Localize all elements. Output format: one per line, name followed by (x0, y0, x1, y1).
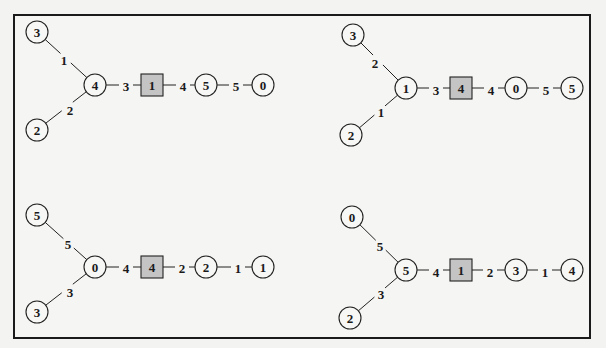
edge: 3 (46, 274, 87, 306)
edge-weight-label: 3 (433, 83, 440, 98)
edge-weight-label: 4 (180, 79, 187, 94)
node-label: 1 (403, 81, 410, 96)
edge-weight-label: 2 (487, 265, 494, 280)
edge-weight-label: 5 (233, 79, 240, 94)
edge: 4 (106, 261, 141, 276)
tree-node: 5 (395, 259, 417, 281)
edge-weight-label: 1 (542, 265, 549, 280)
node-label: 4 (569, 263, 576, 278)
edge: 5 (527, 83, 561, 98)
node-label: 0 (260, 78, 267, 93)
root-node: 1 (141, 74, 163, 96)
tree-node: 5 (26, 204, 48, 226)
node-label: 3 (350, 28, 357, 43)
edge-line (358, 297, 374, 311)
edge: 4 (417, 265, 450, 280)
tree-node: 2 (26, 119, 48, 141)
edge-weight-label: 2 (372, 56, 379, 71)
edge-weight-label: 3 (123, 79, 130, 94)
edge-line (71, 63, 87, 78)
node-label: 2 (203, 260, 210, 275)
tree-node: 3 (26, 301, 48, 323)
tree-node: 1 (395, 77, 417, 99)
node-label: 5 (34, 208, 41, 223)
edge-line (73, 92, 86, 102)
tree-node: 2 (340, 124, 362, 146)
tree-node: 1 (252, 256, 274, 278)
edge-weight-label: 3 (67, 285, 74, 300)
tree-node: 5 (561, 77, 583, 99)
edge-weight-label: 4 (488, 83, 495, 98)
node-label: 4 (92, 78, 99, 93)
edge-line (45, 222, 63, 238)
edge: 1 (527, 265, 561, 280)
edge: 2 (472, 265, 505, 280)
node-label: 2 (347, 311, 354, 326)
node-label: 4 (458, 81, 465, 96)
edge-line (361, 43, 373, 55)
tree-node: 4 (561, 259, 583, 281)
tree-node: 3 (505, 259, 527, 281)
tree-node: 3 (342, 24, 364, 46)
edge: 3 (417, 83, 450, 98)
edge: 3 (358, 277, 397, 311)
edge-line (385, 95, 398, 106)
edge-line (386, 250, 398, 262)
tree-node: 0 (505, 77, 527, 99)
edge-line (74, 248, 87, 260)
edge-line (360, 225, 376, 241)
edge-line (45, 39, 60, 53)
edge-weight-label: 5 (377, 239, 384, 254)
diagram-top-left: 13452341502 (26, 21, 274, 141)
diagram-bottom-right: 54213051342 (339, 206, 583, 329)
edge: 4 (472, 83, 505, 98)
node-label: 2 (348, 128, 355, 143)
tree-node: 4 (84, 74, 106, 96)
tree-node: 0 (341, 206, 363, 228)
edge-weight-label: 2 (67, 103, 74, 118)
edge: 5 (45, 222, 87, 259)
edge: 1 (45, 39, 87, 77)
node-label: 1 (260, 260, 267, 275)
edge: 5 (217, 79, 252, 94)
node-label: 3 (34, 305, 41, 320)
root-node: 4 (141, 256, 163, 278)
node-label: 5 (203, 78, 210, 93)
node-label: 1 (149, 78, 156, 93)
edge-weight-label: 2 (179, 261, 186, 276)
edge-weight-label: 5 (65, 237, 72, 252)
edge: 5 (360, 225, 398, 263)
edge-weight-label: 3 (378, 287, 385, 302)
node-label: 0 (92, 260, 99, 275)
root-node: 1 (450, 259, 472, 281)
node-label: 3 (513, 263, 520, 278)
node-label: 3 (34, 25, 41, 40)
node-label: 5 (403, 263, 410, 278)
edge-weight-label: 1 (378, 105, 385, 120)
edge-line (46, 111, 62, 123)
tree-node: 2 (195, 256, 217, 278)
edge: 2 (163, 261, 195, 276)
tree-node: 3 (26, 21, 48, 43)
edge: 3 (106, 79, 141, 94)
edge-line (73, 274, 86, 284)
tree-node: 0 (252, 74, 274, 96)
edge-line (385, 277, 398, 288)
edge-weight-label: 4 (433, 265, 440, 280)
node-label: 0 (349, 210, 356, 225)
tree-node: 5 (195, 74, 217, 96)
edge-line (46, 293, 62, 305)
tree-node: 2 (339, 307, 361, 329)
node-label: 0 (513, 81, 520, 96)
edge: 1 (217, 261, 252, 276)
edge: 1 (359, 95, 397, 128)
node-label: 4 (149, 260, 156, 275)
edge: 2 (361, 43, 398, 80)
edge-weight-label: 1 (61, 53, 68, 68)
node-label: 1 (458, 263, 465, 278)
edge: 4 (163, 79, 195, 94)
diagram-top-right: 23451314052 (340, 24, 583, 146)
tree-node: 0 (84, 256, 106, 278)
root-node: 4 (450, 77, 472, 99)
node-label: 2 (34, 123, 41, 138)
